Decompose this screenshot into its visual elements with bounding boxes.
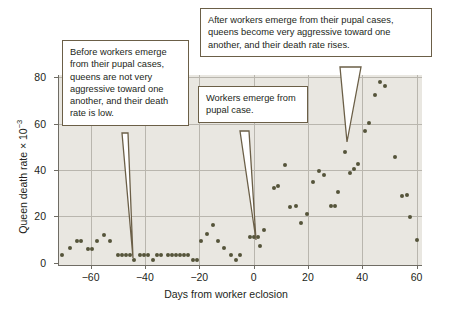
pointer-workers-emerge	[240, 131, 256, 240]
callout-before-emergence: Before workers emerge from their pupal c…	[62, 40, 189, 126]
figure-container: −60−40−200204060 020406080 Days from wor…	[0, 0, 452, 310]
callout-after-emergence: After workers emerge from their pupal ca…	[200, 8, 432, 57]
callout-workers-emerge: Workers emerge from pupal case.	[198, 86, 308, 123]
pointer-before-emergence	[122, 133, 133, 258]
pointer-after-emergence	[340, 67, 361, 142]
